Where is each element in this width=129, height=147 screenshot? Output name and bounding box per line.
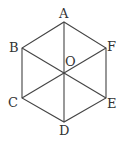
label-E: E [107, 96, 117, 111]
hexagon-diagram: A B F O C E D [0, 0, 129, 147]
label-D: D [59, 123, 69, 138]
label-F: F [107, 39, 116, 54]
label-A: A [58, 6, 69, 21]
label-O: O [65, 54, 76, 69]
hexagon-edges [22, 22, 106, 122]
label-C: C [8, 95, 18, 110]
label-B: B [9, 40, 19, 55]
